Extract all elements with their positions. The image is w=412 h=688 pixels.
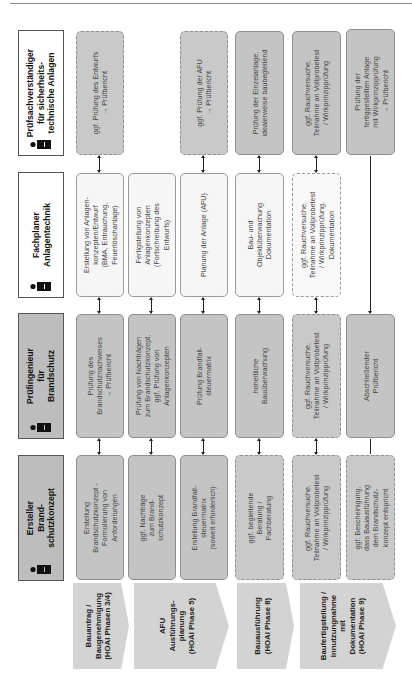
person-icon: [30, 563, 52, 576]
role-label: Ersteller Brand- schutzkonzept: [25, 488, 57, 548]
role-pruefingenieur: Prüfingenieur für Brandschutz: [18, 313, 64, 439]
task-ers-rauchversuche: ggf. Rauchversuche, Teilnahme an Vollpro…: [292, 455, 341, 580]
phase-baufertigstellung: Baufertigstellung / Innutzungnahme mit D…: [300, 583, 396, 669]
phase-bauantrag: Bauantrag / Baugenehmigung (HOAI Phasen …: [73, 583, 129, 669]
connector-line: [370, 156, 371, 313]
task-fp-ueberwachung: Bau- und Objektüberwachung Dokumentation: [235, 173, 284, 297]
connector-arrow: [99, 439, 100, 454]
connector-arrow: [99, 156, 100, 172]
connector-arrow: [316, 298, 317, 313]
task-ers-nachtraege: ggf. Nachträge zum Brand- schutzkonzept: [128, 455, 176, 580]
task-ers-konzept: Erstellung Brandschutzkonzept - Formulie…: [76, 455, 124, 580]
task-pi-bauueberwachung: hoheitliche Bauüberwachung: [235, 314, 284, 438]
role-label: Prüfingenieur für Brandschutz: [25, 348, 57, 404]
role-ersteller: Ersteller Brand- schutzkonzept: [18, 455, 64, 581]
task-pi-steuermatrix: Prüfung Brandfall- steuermatrix: [180, 314, 228, 438]
task-fp-fertigstellung: Fertigstellung von Anlagenkonzepten (For…: [128, 173, 176, 297]
connector-arrow: [151, 439, 152, 454]
connector-arrow: [259, 439, 260, 454]
person-icon: [30, 138, 52, 151]
connector-line: [370, 439, 371, 454]
role-label: Prüfsachverständiger für sicherheits- te…: [25, 49, 57, 137]
task-pi-nachweis: Prüfung des Brandschutznachweises → Prüf…: [76, 314, 124, 438]
role-label: Fachplaner Anlagentechnik: [31, 203, 52, 267]
connector-arrow: [259, 298, 260, 313]
role-pruefsachverstaendiger: Prüfsachverständiger für sicherheits- te…: [18, 30, 64, 156]
connector-arrow: [203, 298, 204, 313]
connector-arrow: [316, 439, 317, 454]
task-ers-bescheinigung: ggf. Bescheinigung, dass Bauausführung d…: [346, 455, 395, 580]
task-psv-einzelanlage: Prüfung der Einzelanlage, idealerweise b…: [235, 31, 284, 155]
task-ers-beratung: ggf. begleitende Beratung / Fachberatung: [235, 455, 284, 580]
task-fp-rauchversuche: ggf. Rauchversuche, Teilnahme an Vollpro…: [292, 173, 341, 297]
connector-arrow: [316, 156, 317, 172]
person-icon: [30, 280, 52, 293]
task-psv-entwurf: ggf. Prüfung des Entwurfs → Prüfbericht: [76, 31, 124, 155]
phase-bauausfuehrung: Bauausführung (HOAI Phase 8): [237, 583, 294, 669]
person-icon: [30, 421, 52, 434]
connector-arrow: [151, 298, 152, 313]
connector-arrow: [259, 156, 260, 172]
page-header-rule: [10, 3, 412, 4]
connector-arrow: [203, 156, 204, 172]
task-fp-planung: Planung der Anlage (AFU): [180, 173, 228, 297]
task-pi-rauchversuche: ggf. Rauchversuche, Teilnahme an Vollpro…: [292, 314, 341, 438]
task-psv-abnahme: Prüfung der fertiggestellten Anlage mit …: [346, 29, 395, 155]
connector-arrow: [99, 298, 100, 313]
task-pi-nachtraege: Prüfung von Nachträgen zum Brandschutzko…: [128, 314, 176, 438]
task-fp-entwurf: Erstellung von Anlagen- konzepten/Entwur…: [76, 173, 124, 297]
role-fachplaner: Fachplaner Anlagentechnik: [18, 172, 64, 298]
phase-afu: AFU Ausführungs- planung (HOAI Phase 5): [134, 583, 229, 669]
connector-arrow: [203, 439, 204, 454]
task-pi-pruefbericht: Abschließender Prüfbericht: [346, 314, 395, 438]
task-psv-afu: ggf. Prüfung der AFU → Prüfbericht: [180, 31, 228, 155]
task-ers-steuermatrix: Erstellung Brandfall- steuermatrix (sowe…: [180, 455, 228, 580]
task-psv-rauchversuche: ggf. Rauchversuche, Teilnahme an Vollpro…: [292, 31, 341, 155]
